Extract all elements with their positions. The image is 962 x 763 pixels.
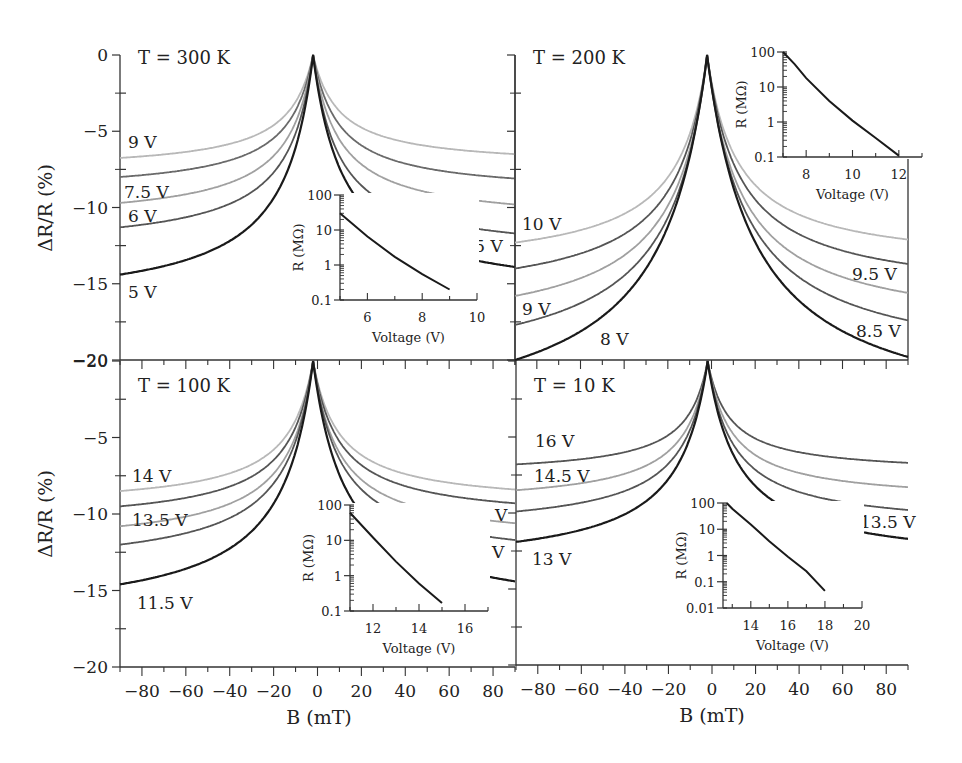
x-tick-label: 40 [788,679,810,699]
inset-x-label: Voltage (V) [815,187,889,202]
panel-title: T = 300 K [138,47,231,68]
curve-label: 16 V [535,431,575,451]
inset-x-tick-label: 20 [854,618,871,633]
curve-label: 7.5 V [124,182,169,202]
inset-x-label: Voltage (V) [371,330,445,345]
curve-label: 9 V [522,299,551,319]
x-axis-label-right: B (mT) [679,704,745,726]
panel-title: T = 10 K [534,375,615,396]
curve-9V [120,55,515,158]
inset-y-tick-label: 10 [325,533,342,548]
inset-y-tick-label: 1 [707,549,715,564]
y-tick-label: 0 [97,45,108,65]
figure-canvas: 0−5−10−15−20T = 300 K9 V7.5 V6 V5.5 V5 V… [0,0,962,763]
inset-y-tick-label: 0.1 [311,293,332,308]
curve-label: 5 V [128,282,157,302]
inset-x-tick-label: 8 [418,310,426,325]
curve-label: 13.5 V [132,510,188,530]
x-tick-label: 20 [745,679,767,699]
inset-bottom-left: 1001010.1121416Voltage (V)R (MΩ) [301,498,490,656]
inset-y-tick-label: 100 [690,496,715,511]
y-axis-label-bottom: ΔR/R (%) [34,470,56,558]
x-tick-label: 80 [482,681,504,701]
y-tick-label: −20 [72,657,108,677]
inset-y-label: R (MΩ) [291,223,306,271]
x-tick-label: −60 [168,681,204,701]
inset-y-tick-label: 0.1 [694,575,715,590]
inset-x-tick-label: 12 [891,167,908,182]
curve-label: 11.5 V [137,593,193,613]
inset-x-label: Voltage (V) [755,638,829,653]
inset-y-label: R (MΩ) [674,531,689,579]
x-tick-label: −80 [520,679,556,699]
x-tick-label: 0 [312,681,323,701]
x-tick-label: −20 [256,681,292,701]
x-tick-label: 60 [438,681,460,701]
curve-label: 14 V [132,466,172,486]
y-tick-label: −10 [72,198,108,218]
inset-y-tick-label: 0.1 [321,604,342,619]
x-tick-label: −80 [124,681,160,701]
y-tick-label: −15 [72,581,108,601]
inset-top-left: 1001010.16810Voltage (V)R (MΩ) [291,188,485,345]
x-tick-label: 0 [707,679,718,699]
curve-label: 13 V [532,549,572,569]
inset-x-tick-label: 18 [817,618,834,633]
x-tick-label: 20 [351,681,373,701]
panel-top-right: T = 200 K10 V9.5 V9 V8.5 V8 V1001010.181… [507,45,924,369]
inset-y-label: R (MΩ) [301,534,316,582]
x-tick-label: 40 [394,681,416,701]
curve-label: 8.5 V [856,321,901,341]
inset-x-tick-label: 16 [780,618,797,633]
x-tick-label: −20 [650,679,686,699]
y-tick-label: −10 [72,504,108,524]
inset-x-tick-label: 10 [844,167,861,182]
curve-label: 13.5 V [860,512,916,532]
inset-x-tick-label: 16 [457,621,474,636]
inset-y-tick-label: 100 [750,45,775,60]
curve-label: 8 V [600,329,629,349]
inset-y-label: R (MΩ) [734,80,749,128]
x-tick-label: −40 [607,679,643,699]
inset-x-tick-label: 14 [743,618,760,633]
inset-y-tick-label: 0.01 [686,601,715,616]
curve-label: 6 V [128,206,157,226]
y-tick-label: −15 [72,274,108,294]
inset-y-tick-label: 10 [698,522,715,537]
curve-label: 14.5 V [534,466,590,486]
inset-top-right: 1001010.181012Voltage (V)R (MΩ) [734,45,924,202]
inset-x-tick-label: 12 [365,621,382,636]
inset-y-tick-label: 10 [315,223,332,238]
y-tick-label: −5 [83,121,108,141]
curve-label: 10 V [522,214,562,234]
curve-label: 9.5 V [852,264,897,284]
inset-y-tick-label: 10 [758,80,775,95]
panel-title: T = 100 K [138,375,231,396]
x-tick-label: −40 [212,681,248,701]
panel-top-left: 0−5−10−15−20T = 300 K9 V7.5 V6 V5.5 V5 V… [72,45,515,370]
inset-x-tick-label: 14 [411,621,428,636]
inset-x-label: Voltage (V) [382,641,456,656]
curve-75V [120,55,515,179]
y-axis-label-top: ΔR/R (%) [34,164,56,252]
inset-x-tick-label: 8 [802,167,810,182]
x-axis-label-left: B (mT) [286,706,352,728]
y-tick-label: −20 [72,351,108,371]
panel-title: T = 200 K [533,47,626,68]
inset-y-tick-label: 1 [767,115,775,130]
inset-y-tick-label: 100 [317,498,342,513]
inset-bottom-right: 1001010.10.0114161820Voltage (V)R (MΩ) [674,496,870,653]
inset-y-tick-label: 1 [324,258,332,273]
inset-y-tick-label: 1 [334,569,342,584]
inset-x-tick-label: 10 [469,310,486,325]
inset-y-tick-label: 100 [307,188,332,203]
y-tick-label: −5 [83,428,108,448]
panel-bottom-left: −20−5−10−15−20−80−60−40−20020406080T = 1… [72,351,515,701]
inset-y-tick-label: 0.1 [754,150,775,165]
inset-x-tick-label: 6 [363,310,371,325]
x-tick-label: 60 [832,679,854,699]
curve-label: 9 V [128,132,157,152]
panel-bottom-right: −80−60−40−20020406080T = 10 K16 V14.5 V1… [508,361,916,699]
x-tick-label: −60 [563,679,599,699]
x-tick-label: 80 [875,679,897,699]
